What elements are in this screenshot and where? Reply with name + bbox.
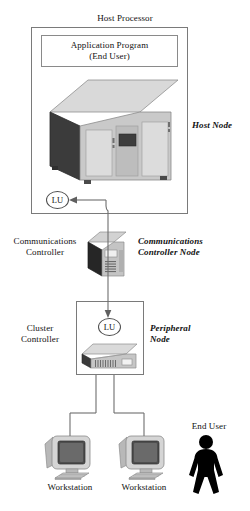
desktop-chassis-icon — [80, 342, 140, 373]
cluster-controller-label: Cluster Controller — [8, 323, 72, 345]
lu-host-circle: LU — [46, 191, 69, 209]
crt-monitor-icon — [115, 432, 173, 480]
application-program-box: Application Program (End User) — [41, 35, 178, 67]
diagram-canvas: Host Processor Application Program (End … — [0, 0, 250, 511]
end-user-label: End User — [178, 421, 240, 432]
lu-peripheral-circle: LU — [98, 318, 121, 336]
crt-monitor-icon — [41, 432, 99, 480]
workstation-left-label: Workstation — [34, 482, 106, 493]
application-program-label: Application Program (End User) — [42, 40, 177, 62]
tower-server-icon — [86, 230, 128, 280]
host-node-label: Host Node — [192, 120, 250, 131]
lu-peripheral-label: LU — [104, 322, 115, 332]
mainframe-computer-icon — [42, 74, 178, 186]
communications-controller-node-label: Communications Controller Node — [138, 236, 246, 258]
communications-controller-label: Communications Controller — [4, 236, 86, 258]
peripheral-node-label: Peripheral Node — [150, 323, 212, 345]
host-processor-label: Host Processor — [55, 13, 195, 24]
lu-host-label: LU — [52, 195, 63, 205]
person-silhouette-icon — [184, 434, 228, 496]
workstation-right-label: Workstation — [108, 482, 180, 493]
